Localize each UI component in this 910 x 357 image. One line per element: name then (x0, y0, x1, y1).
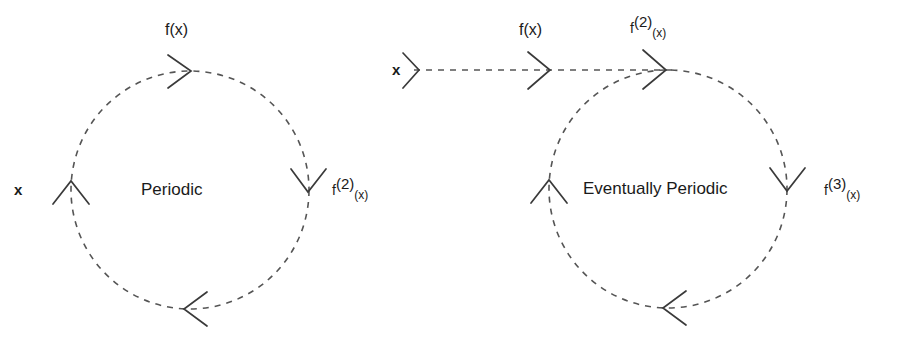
diagram-canvas (0, 0, 910, 357)
arrowhead-top-periodic (168, 55, 191, 88)
eventually-periodic-right-label: f(3)(x) (824, 182, 860, 198)
periodic-right-label-superscript: (2) (336, 175, 354, 192)
eventually-periodic-center-label: Eventually Periodic (583, 180, 728, 197)
eventually-periodic-right-label-superscript: (3) (828, 175, 846, 192)
periodic-right-label-argument: (x) (354, 188, 368, 202)
eventually-periodic-top-first-label: f(x) (519, 22, 542, 38)
eventually-periodic-top-second-argument: (x) (652, 26, 666, 40)
eventually-periodic-start-label: x (392, 62, 400, 77)
periodic-right-label: f(2)(x) (332, 182, 368, 198)
eventually-periodic-right-label-argument: (x) (846, 188, 860, 202)
periodic-center-label: Periodic (141, 181, 202, 198)
periodic-start-label: x (14, 182, 22, 197)
eventually-periodic-top-second-superscript: (2) (634, 13, 652, 30)
function-iteration-orbit-diagram: x f(x) f(2)(x) Periodic x f(x) f(2)(x) f… (0, 0, 910, 357)
periodic-top-label: f(x) (165, 22, 188, 38)
eventually-periodic-top-second-label: f(2)(x) (630, 20, 666, 36)
